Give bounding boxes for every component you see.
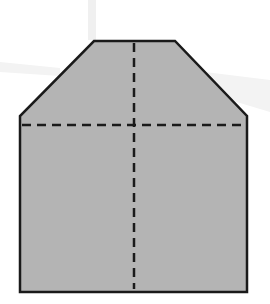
folding-diagram [0, 0, 270, 304]
